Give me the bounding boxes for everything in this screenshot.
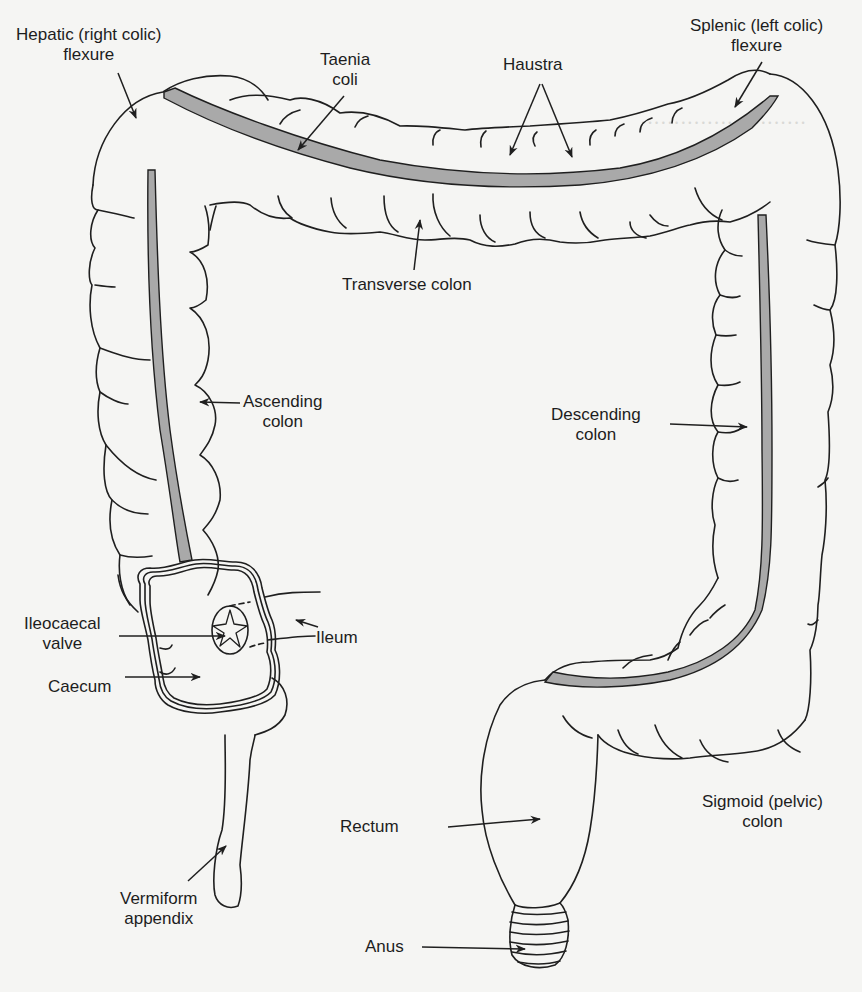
label-line: valve	[24, 634, 101, 654]
label-line: Rectum	[340, 817, 399, 837]
diagram-canvas: ·························	[0, 0, 862, 992]
label-line: Anus	[365, 937, 404, 957]
label-line: Hepatic (right colic)	[16, 25, 162, 45]
label-line: Caecum	[48, 677, 111, 697]
label-line: colon	[551, 425, 641, 445]
leader-arrows	[118, 62, 762, 949]
label-haustra: Haustra	[503, 55, 563, 75]
label-line: Sigmoid (pelvic)	[702, 792, 823, 812]
colon-illustration	[0, 0, 862, 992]
label-rectum: Rectum	[340, 817, 399, 837]
label-line: Ileum	[316, 628, 358, 648]
ileocaecal-valve-shape	[160, 606, 248, 674]
label-line: Taenia	[320, 50, 370, 70]
label-line: colon	[702, 812, 823, 832]
label-line: Ascending	[243, 392, 322, 412]
ileum-shape	[230, 592, 320, 647]
label-line: flexure	[690, 36, 823, 56]
label-sigmoid-colon: Sigmoid (pelvic) colon	[702, 792, 823, 832]
label-line: coli	[320, 70, 370, 90]
label-line: Ileocaecal	[24, 614, 101, 634]
label-line: Splenic (left colic)	[690, 16, 823, 36]
label-caecum: Caecum	[48, 677, 111, 697]
label-taenia-coli: Taenia coli	[320, 50, 370, 90]
label-line: Haustra	[503, 55, 563, 75]
label-line: Transverse colon	[342, 275, 472, 295]
label-ascending-colon: Ascending colon	[243, 392, 322, 432]
label-line: Descending	[551, 405, 641, 425]
label-ileum: Ileum	[316, 628, 358, 648]
label-transverse-colon: Transverse colon	[342, 275, 472, 295]
taenia-coli-band	[148, 88, 778, 687]
label-splenic-flexure: Splenic (left colic) flexure	[690, 16, 823, 56]
label-vermiform-appendix: Vermiform appendix	[120, 889, 197, 929]
label-hepatic-flexure: Hepatic (right colic) flexure	[16, 25, 162, 65]
label-ileocaecal-valve: Ileocaecal valve	[24, 614, 101, 654]
caecum-shape	[118, 559, 287, 735]
appendix-shape	[214, 735, 255, 907]
descending-colon-shape	[711, 74, 840, 720]
label-line: flexure	[16, 45, 162, 65]
rectum-shape	[481, 680, 598, 908]
label-anus: Anus	[365, 937, 404, 957]
label-descending-colon: Descending colon	[551, 405, 641, 445]
label-line: appendix	[120, 909, 197, 929]
label-line: colon	[243, 412, 322, 432]
anus-shape	[510, 903, 569, 968]
label-line: Vermiform	[120, 889, 197, 909]
